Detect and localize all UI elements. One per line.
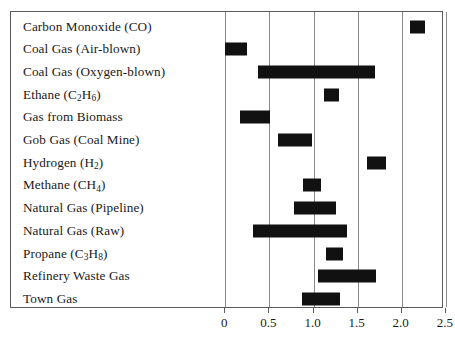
category-label: Carbon Monoxide (CO) (23, 19, 152, 35)
range-bar (324, 88, 339, 101)
chart-row: Natural Gas (Raw) (11, 219, 442, 242)
chart-row: Propane (C3H8) (11, 242, 442, 265)
chart-row: Gas from Biomass (11, 106, 442, 129)
category-label: Gob Gas (Coal Mine) (23, 132, 140, 148)
axis-tick-label: 0.5 (260, 315, 276, 331)
axis-tick (268, 308, 269, 313)
range-bar (225, 43, 247, 56)
category-label: Natural Gas (Pipeline) (23, 200, 144, 216)
category-label: Refinery Waste Gas (23, 268, 130, 284)
range-bar (303, 179, 321, 192)
chart-row: Coal Gas (Air-blown) (11, 38, 442, 61)
chart-row: Carbon Monoxide (CO) (11, 15, 442, 38)
category-label: Natural Gas (Raw) (23, 223, 124, 239)
category-label: Methane (CH4) (23, 177, 106, 193)
category-label: Hydrogen (H2) (23, 155, 103, 171)
range-bar (367, 156, 386, 169)
range-bar (278, 134, 312, 147)
category-label: Propane (C3H8) (23, 246, 107, 262)
category-label: Ethane (C2H6) (23, 87, 101, 103)
category-label: Town Gas (23, 291, 77, 307)
chart-figure: Carbon Monoxide (CO)Coal Gas (Air-blown)… (0, 0, 455, 345)
axis-tick-label: 2.5 (437, 315, 453, 331)
range-bar (258, 65, 375, 78)
range-bar (253, 224, 347, 237)
range-bar (240, 111, 270, 124)
chart-row: Ethane (C2H6) (11, 83, 442, 106)
axis-tick-label: 1.5 (348, 315, 364, 331)
gridline-2.5 (446, 12, 447, 307)
axis-tick (357, 308, 358, 313)
chart-row: Refinery Waste Gas (11, 265, 442, 288)
category-label: Gas from Biomass (23, 109, 123, 125)
axis-tick-label: 0 (221, 315, 228, 331)
axis-tick (401, 308, 402, 313)
chart-row: Hydrogen (H2) (11, 151, 442, 174)
range-bar (302, 292, 340, 305)
axis-tick (313, 308, 314, 313)
range-bar (318, 270, 376, 283)
range-bar (326, 247, 343, 260)
chart-row: Gob Gas (Coal Mine) (11, 129, 442, 152)
axis-tick (224, 308, 225, 313)
category-label: Coal Gas (Air-blown) (23, 41, 140, 57)
chart-row: Natural Gas (Pipeline) (11, 197, 442, 220)
chart-row: Town Gas (11, 287, 442, 310)
range-bar (410, 20, 425, 33)
axis-tick-label: 1.0 (304, 315, 320, 331)
axis-tick-label: 2.0 (393, 315, 409, 331)
chart-row: Methane (CH4) (11, 174, 442, 197)
chart-row: Coal Gas (Oxygen-blown) (11, 60, 442, 83)
plot-panel: Carbon Monoxide (CO)Coal Gas (Air-blown)… (10, 11, 443, 308)
category-label: Coal Gas (Oxygen-blown) (23, 64, 165, 80)
range-bar (294, 202, 335, 215)
axis-tick (445, 308, 446, 313)
